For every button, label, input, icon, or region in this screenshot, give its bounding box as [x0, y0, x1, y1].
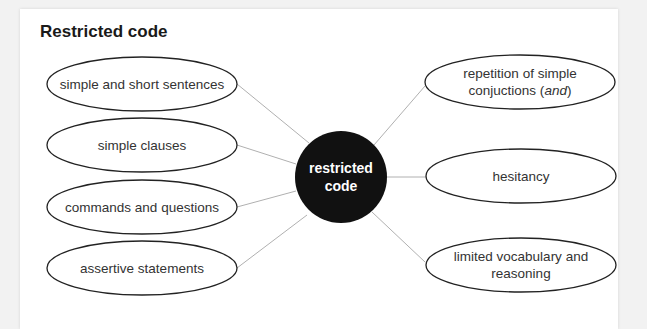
- node-label: repetition of simple conjuctions (and): [445, 65, 595, 99]
- node-simple-short-sentences: simple and short sentences: [52, 60, 232, 108]
- center-label: restricted code: [295, 131, 387, 223]
- connector-line: [237, 191, 296, 207]
- node-assertive-statements: assertive statements: [52, 244, 232, 292]
- connector-line: [237, 145, 296, 164]
- node-limited-vocabulary: limited vocabulary and reasoning: [446, 241, 596, 289]
- node-hesitancy: hesitancy: [431, 152, 611, 200]
- node-repetition-conjunctions: repetition of simple conjuctions (and): [445, 58, 595, 106]
- node-simple-clauses: simple clauses: [52, 121, 232, 169]
- node-commands-questions: commands and questions: [52, 183, 232, 231]
